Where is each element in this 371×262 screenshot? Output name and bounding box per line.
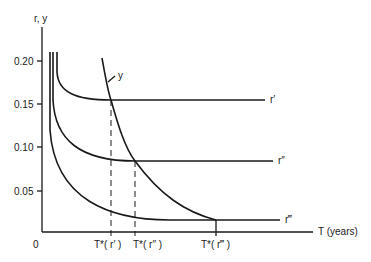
x-axis-label: T (years) [318, 226, 358, 237]
curve-y-label: y [118, 70, 123, 81]
y-tick-label-005: 0.05 [14, 186, 34, 197]
y-tick-label-010: 0.10 [14, 142, 34, 153]
y-tick-label-015: 0.15 [14, 99, 34, 110]
curve-r-double-prime [53, 52, 273, 161]
yield-curve-diagram: r, y 0.20 0.15 0.10 0.05 0 y r′ r″ r‴ T … [0, 0, 371, 262]
origin-label: 0 [33, 239, 39, 250]
y-pointer-line [108, 76, 115, 82]
y-axis-label: r, y [34, 13, 47, 24]
marker-label-r-double-prime: T*( r″ ) [133, 239, 162, 250]
marker-label-r-triple-prime: T*( r‴ ) [201, 239, 230, 250]
line-label-r-prime: r′ [270, 94, 275, 105]
curve-y [102, 58, 216, 220]
y-tick-label-020: 0.20 [14, 56, 34, 67]
line-label-r-double-prime: r″ [278, 155, 285, 166]
line-label-r-triple-prime: r‴ [285, 214, 292, 225]
curve-r-prime [57, 52, 265, 100]
marker-label-r-prime: T*( r′ ) [94, 239, 121, 250]
